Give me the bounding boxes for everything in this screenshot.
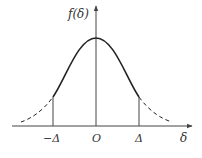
x-axis-label: δ (180, 131, 187, 145)
right-bound-label: Δ (134, 132, 143, 145)
normal-distribution-diagram: f(δ) δ O −Δ Δ (0, 0, 202, 158)
left-bound-label: −Δ (43, 132, 60, 145)
origin-label: O (92, 132, 101, 145)
curve-right-tail (139, 97, 172, 122)
curve-left-tail (21, 97, 53, 122)
y-axis-label: f(δ) (67, 7, 89, 21)
